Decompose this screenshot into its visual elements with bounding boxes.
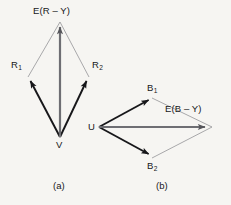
panel-b-component-1-label: B1 <box>147 83 157 93</box>
panel-b-component-vector-2 <box>99 127 149 154</box>
panel-a-component-2-subscript: 2 <box>99 64 103 71</box>
panel-b-component-2-label: B2 <box>147 161 157 171</box>
panel-a-closing-line-2 <box>60 22 89 77</box>
panel-b-caption: (b) <box>156 181 168 191</box>
panel-a-component-2-name: R <box>92 59 99 70</box>
panel-b-component-1-subscript: 1 <box>154 87 158 94</box>
panel-a-component-vector-2 <box>60 81 87 137</box>
panel-a-component-vector-1 <box>31 81 61 137</box>
panel-b-component-vector-1 <box>99 100 149 127</box>
panel-a-component-1-subscript: 1 <box>18 64 22 71</box>
panel-b-component-1-name: B <box>147 82 153 93</box>
panel-a-caption: (a) <box>53 181 65 191</box>
panel-b-closing-line-2 <box>152 127 212 158</box>
panel-a-component-2-label: R2 <box>92 60 103 70</box>
panel-b-component-2-subscript: 2 <box>154 165 158 172</box>
vector-diagram-figure: E(R – Y) R1 R2 V (a) E(B – Y) B1 B2 U (b… <box>0 0 231 205</box>
panel-b-resultant-label: E(B – Y) <box>165 104 202 114</box>
panel-b-component-2-name: B <box>147 160 153 171</box>
panel-a-resultant-label: E(R – Y) <box>33 6 70 16</box>
panel-b-origin-label: U <box>88 122 95 132</box>
panel-a-component-1-label: R1 <box>11 60 22 70</box>
panel-a-component-1-name: R <box>11 59 18 70</box>
panel-a-closing-line-1 <box>28 22 60 77</box>
panel-a-vectors <box>28 22 89 137</box>
panel-a-origin-label: V <box>56 140 62 150</box>
